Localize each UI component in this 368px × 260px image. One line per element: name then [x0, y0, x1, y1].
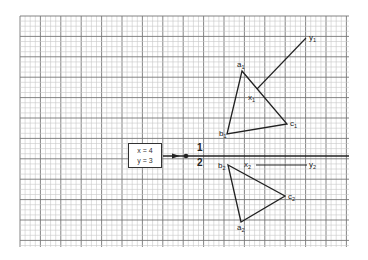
label-b1: b1 [219, 130, 227, 140]
junction-dot [184, 154, 189, 159]
branch-label-1: 1 [197, 143, 203, 153]
label-x1: x1 [248, 94, 255, 104]
label-y1: y1 [309, 34, 316, 44]
label-a2: a2 [237, 224, 245, 234]
branch-label-2: 2 [197, 158, 203, 168]
label-b2: b2 [218, 162, 226, 172]
input-x-value: x = 4 [137, 146, 152, 156]
grid [20, 16, 349, 247]
label-c2: c2 [288, 193, 295, 203]
input-y-value: y = 3 [137, 156, 152, 166]
label-c1: c1 [290, 120, 297, 130]
label-y2: y2 [309, 161, 316, 171]
triangle-2 [228, 165, 285, 222]
label-a1: a1 [237, 61, 245, 71]
label-x2: x2 [244, 161, 251, 171]
input-box: x = 4 y = 3 [128, 143, 162, 168]
arrowhead-icon [172, 154, 180, 159]
